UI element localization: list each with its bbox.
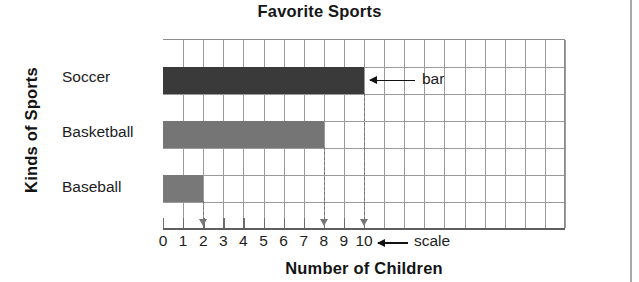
x-tick (163, 218, 164, 228)
guide-arrowhead-baseball (199, 219, 207, 226)
guide-line-baseball (203, 201, 204, 220)
gridline-vertical (525, 40, 526, 228)
x-tick (344, 218, 345, 228)
scale-callout-label: scale (414, 232, 450, 250)
guide-line-soccer (364, 93, 365, 220)
gridline-vertical (565, 40, 566, 228)
scale-callout-arrow (378, 242, 408, 244)
guide-arrowhead-soccer (360, 219, 368, 226)
gridline-vertical (444, 40, 445, 228)
category-label-soccer: Soccer (62, 68, 172, 86)
x-tick (183, 218, 184, 228)
category-label-baseball: Baseball (62, 178, 172, 196)
x-tick (304, 218, 305, 228)
bar-soccer (163, 67, 364, 94)
guide-line-basketball (324, 147, 325, 220)
x-tick-label-10: 10 (349, 232, 379, 250)
bar-callout-label: bar (422, 70, 444, 88)
x-axis-title: Number of Children (163, 259, 565, 278)
x-tick (264, 218, 265, 228)
gridline-vertical (485, 40, 486, 228)
x-axis-line (163, 228, 565, 230)
bar-baseball (163, 175, 203, 202)
gridline-vertical (384, 40, 385, 228)
chart-page: Favorite Sports Kinds of Sports Soccer B… (0, 0, 639, 282)
page-edge-artifact (630, 0, 632, 282)
gridline-vertical (424, 40, 425, 228)
x-tick (243, 218, 244, 228)
gridline-vertical (505, 40, 506, 228)
gridline-vertical (545, 40, 546, 228)
gridline-vertical (404, 40, 405, 228)
y-axis-title-text: Kinds of Sports (22, 67, 41, 193)
gridline-vertical (465, 40, 466, 228)
y-axis-title: Kinds of Sports (10, 30, 52, 230)
category-label-basketball: Basketball (62, 123, 172, 141)
x-tick (223, 218, 224, 228)
bar-basketball (163, 121, 324, 148)
bar-callout-arrow (370, 80, 415, 82)
category-label-group: Soccer Basketball Baseball (52, 0, 160, 282)
guide-arrowhead-basketball (320, 219, 328, 226)
x-tick (284, 218, 285, 228)
